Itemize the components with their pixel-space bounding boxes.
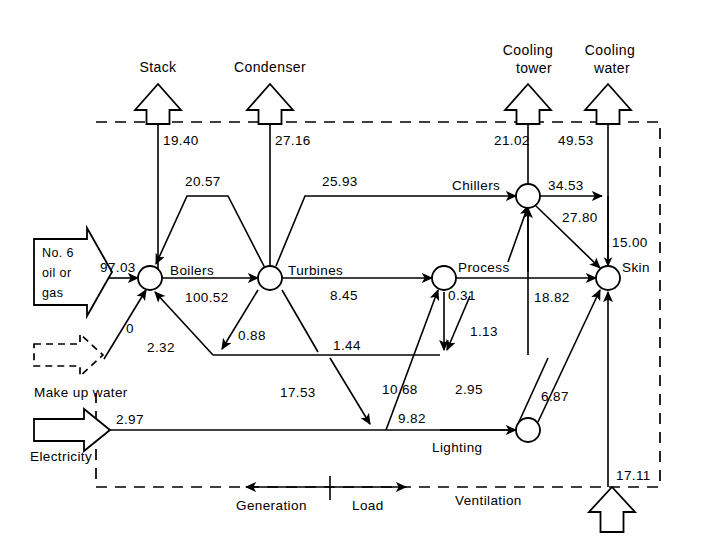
flow-value-2057: 20.57 (185, 174, 221, 189)
node-label-turbines: Turbines (288, 263, 343, 278)
ventilation-input-arrow (589, 487, 635, 532)
flow-value-232: 2.32 (147, 340, 175, 355)
process-down-113-line (447, 296, 470, 350)
flow-value-1500: 15.00 (612, 235, 648, 250)
flow-value-3453: 34.53 (548, 178, 584, 193)
flow-value-2593: 25.93 (322, 174, 358, 189)
flow-value-1753: 17.53 (280, 385, 316, 400)
source-label-makeup-water: Make up water (34, 385, 128, 400)
sink-label-stack: Stack (139, 59, 177, 75)
condenser-output-arrow (247, 84, 293, 124)
energy-flow-diagram: Stack Condenser Cooling tower Cooling wa… (0, 0, 702, 558)
electricity-input-arrow (34, 409, 110, 451)
flow-value-687: 6.87 (541, 389, 569, 404)
flow-value-031: 0.31 (448, 288, 476, 303)
node-skin (596, 266, 620, 290)
value-cooling-water-4953: 49.53 (558, 133, 594, 148)
turbines-to-lowermain-144-line (282, 290, 318, 352)
plant-boundary-dashed (96, 122, 660, 487)
source-label-fuel-line1: No. 6 (42, 246, 74, 260)
node-label-skin: Skin (622, 260, 650, 275)
stack-output-arrow (135, 84, 181, 124)
makeup-to-boilers-0-line (104, 290, 146, 359)
node-label-boilers: Boilers (170, 263, 214, 278)
cooling-water-output-arrow (585, 84, 631, 124)
value-ventilation-1711: 17.11 (616, 468, 651, 483)
node-boilers (138, 266, 162, 290)
value-fuel-9703: 97.03 (100, 260, 136, 275)
turbines-to-boilers-2057-line (156, 196, 266, 270)
flow-value-295: 2.95 (455, 382, 483, 397)
flow-value-088: 0.88 (238, 328, 266, 343)
sink-label-cooling-tower-line1: Cooling (503, 42, 553, 58)
flow-value-1882: 18.82 (534, 290, 570, 305)
value-stack-1940: 19.40 (163, 133, 199, 148)
node-turbines (258, 266, 282, 290)
flow-value-2780: 27.80 (562, 210, 598, 225)
value-cooling-tower-2102: 21.02 (494, 133, 530, 148)
node-chillers (516, 184, 540, 208)
sink-label-condenser: Condenser (234, 59, 306, 75)
flow-value-982: 9.82 (398, 411, 426, 426)
sink-label-cooling-water-line2: water (593, 60, 630, 76)
lowermain-to-elec-1753-line (330, 358, 370, 424)
legend-generation-label: Generation (236, 498, 307, 513)
chillers-feeder-arrow-line (508, 206, 528, 262)
node-process (432, 266, 456, 290)
legend-load-label: Load (352, 498, 384, 513)
node-label-chillers: Chillers (452, 178, 500, 193)
flow-value-1068: 10.68 (382, 382, 418, 397)
flow-diagram-canvas: Stack Condenser Cooling tower Cooling wa… (0, 0, 702, 558)
flow-value-0: 0 (126, 321, 134, 336)
flow-value-113: 1.13 (470, 324, 498, 339)
node-label-lighting: Lighting (432, 440, 483, 455)
lowermain-to-process-1068-line (386, 290, 438, 430)
value-condenser-2716: 27.16 (275, 133, 311, 148)
flow-value-845: 8.45 (330, 288, 358, 303)
source-label-electricity: Electricity (30, 449, 92, 464)
source-label-fuel-line3: gas (42, 286, 63, 300)
node-lighting (516, 418, 540, 442)
cooling-tower-output-arrow (505, 84, 551, 124)
makeup-water-input-arrow (34, 334, 103, 376)
source-label-ventilation: Ventilation (455, 493, 522, 508)
node-label-process: Process (458, 260, 510, 275)
source-label-fuel-line2: oil or (42, 266, 72, 280)
value-electricity-in: 2.97 (116, 412, 144, 427)
turbines-to-chillers-2593-line (276, 196, 516, 266)
sink-label-cooling-tower-line2: tower (516, 60, 552, 76)
sink-label-cooling-water-line1: Cooling (585, 42, 635, 58)
flow-value-144: 1.44 (333, 338, 361, 353)
flow-value-10052: 100.52 (185, 290, 229, 305)
